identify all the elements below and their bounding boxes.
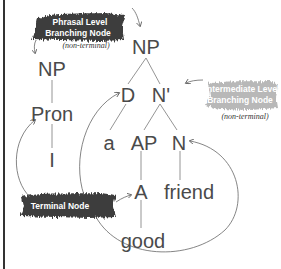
arrow-to-pron (16, 120, 35, 197)
node-n: N (172, 132, 186, 154)
node-n-bar: N' (152, 84, 170, 106)
phrasal-label-line1: Phrasal Level (53, 17, 108, 27)
node-d: D (121, 84, 135, 106)
edge-nbar-ap (144, 104, 160, 130)
arrow-to-np-root (132, 8, 140, 26)
diagram-frame: Phrasal Level Branching Node (non-termin… (0, 0, 281, 269)
node-a-det: a (103, 132, 115, 154)
phrasal-note: (non-terminal) (62, 41, 109, 50)
intermediate-label-line1: Intermediate Level (205, 84, 280, 94)
node-pron: Pron (31, 103, 73, 125)
edge-np-d (128, 58, 146, 84)
arrow-to-a (116, 195, 131, 202)
node-np-left: NP (38, 58, 66, 80)
terminal-label: Terminal Node (31, 201, 90, 211)
edge-d-a (110, 104, 126, 130)
intermediate-label-line2: Branching Node (207, 95, 273, 105)
arrow-to-np-left (34, 40, 36, 53)
phrasal-label-line2: Branching Node (45, 28, 111, 38)
edge-nbar-n (160, 104, 177, 130)
node-np-root: NP (132, 36, 160, 58)
node-ap: AP (131, 132, 158, 154)
node-good: good (121, 230, 166, 252)
node-i: I (49, 149, 55, 171)
intermediate-note: (non-terminal) (221, 112, 268, 121)
node-adj: A (134, 181, 148, 203)
node-friend: friend (164, 181, 214, 203)
edge-np-nbar (146, 58, 160, 84)
arrow-to-nbar (186, 80, 203, 83)
syntax-tree-diagram: Phrasal Level Branching Node (non-termin… (0, 0, 281, 269)
